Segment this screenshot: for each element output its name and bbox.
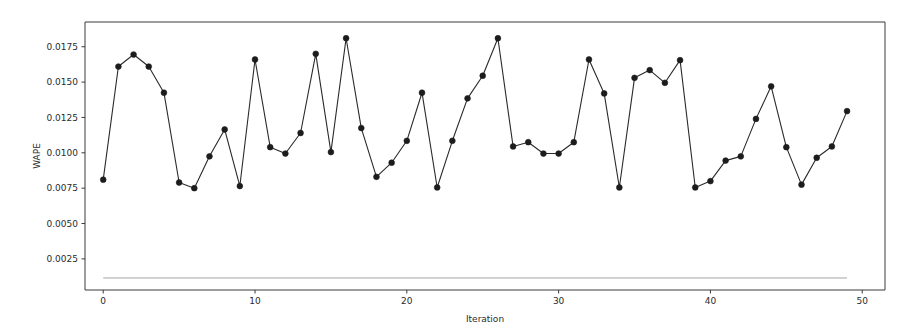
x-tick-label: 20 [401, 296, 413, 306]
data-point-marker [495, 35, 501, 41]
x-tick-label: 10 [249, 296, 261, 306]
data-point-marker [632, 75, 638, 81]
data-point-marker [374, 174, 380, 180]
data-point-marker [237, 183, 243, 189]
data-point-marker [343, 35, 349, 41]
data-point-marker [131, 52, 137, 58]
data-point-marker [601, 91, 607, 97]
data-point-marker [449, 138, 455, 144]
data-point-marker [404, 138, 410, 144]
x-axis-title: Iteration [466, 314, 504, 324]
data-point-marker [525, 139, 531, 145]
data-point-marker [783, 144, 789, 150]
data-point-marker [298, 130, 304, 136]
y-tick-label: 0.0100 [47, 148, 79, 158]
data-point-marker [222, 127, 228, 133]
data-point-marker [723, 158, 729, 164]
data-point-marker [116, 64, 122, 70]
x-tick-label: 40 [705, 296, 717, 306]
data-point-marker [480, 73, 486, 79]
data-point-marker [176, 180, 182, 186]
data-point-marker [647, 67, 653, 73]
data-point-marker [586, 57, 592, 63]
data-point-marker [267, 144, 273, 150]
y-tick-label: 0.0050 [47, 219, 79, 229]
data-point-marker [510, 144, 516, 150]
data-point-marker [328, 149, 334, 155]
axes-background [85, 22, 885, 290]
data-point-marker [814, 155, 820, 161]
x-tick-label: 30 [553, 296, 565, 306]
data-point-marker [753, 116, 759, 122]
data-point-marker [571, 139, 577, 145]
data-point-marker [799, 182, 805, 188]
y-tick-label: 0.0150 [47, 77, 79, 87]
data-point-marker [708, 178, 714, 184]
data-point-marker [282, 151, 288, 157]
data-point-marker [161, 90, 167, 96]
data-point-marker [419, 90, 425, 96]
data-point-marker [692, 185, 698, 191]
data-point-marker [616, 185, 622, 191]
y-axis-title: WAPE [32, 143, 42, 169]
data-point-marker [358, 125, 364, 131]
data-point-marker [556, 151, 562, 157]
y-tick-label: 0.0175 [47, 42, 79, 52]
data-point-marker [844, 108, 850, 114]
data-point-marker [738, 153, 744, 159]
x-tick-label: 0 [100, 296, 106, 306]
wape-iteration-line-chart: 0.00250.00500.00750.01000.01250.01500.01… [0, 0, 921, 336]
data-point-marker [829, 144, 835, 150]
y-tick-label: 0.0025 [47, 254, 79, 264]
chart-figure: 0.00250.00500.00750.01000.01250.01500.01… [0, 0, 921, 336]
data-point-marker [434, 185, 440, 191]
data-point-marker [389, 160, 395, 166]
data-point-marker [677, 57, 683, 63]
y-tick-label: 0.0075 [47, 183, 79, 193]
x-tick-label: 50 [857, 296, 869, 306]
data-point-marker [313, 51, 319, 57]
data-point-marker [768, 83, 774, 89]
data-point-marker [252, 57, 258, 63]
data-point-marker [191, 185, 197, 191]
data-point-marker [146, 64, 152, 70]
data-point-marker [465, 95, 471, 101]
y-tick-label: 0.0125 [47, 113, 79, 123]
data-point-marker [207, 153, 213, 159]
data-point-marker [100, 177, 106, 183]
data-point-marker [541, 151, 547, 157]
data-point-marker [662, 80, 668, 86]
